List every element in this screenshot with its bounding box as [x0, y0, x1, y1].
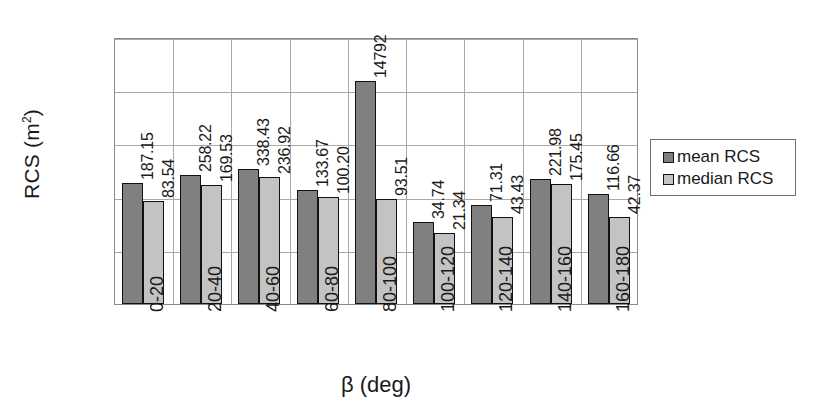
bar-mean-rcs[interactable] — [122, 183, 143, 304]
bar-value-label: 221.98 — [547, 128, 565, 176]
y-axis-title-superscript: 2 — [20, 116, 34, 123]
bar-value-label: 14792 — [372, 35, 390, 79]
bar-mean-rcs[interactable] — [588, 194, 609, 304]
x-tick-label-80-100: 80-100 — [380, 256, 401, 312]
bar-mean-rcs[interactable] — [355, 81, 376, 304]
bar-value-label: 187.15 — [139, 132, 157, 180]
x-tick-label-0-20: 0-20 — [147, 276, 168, 312]
x-tick-label-40-60: 40-60 — [263, 266, 284, 312]
bar-mean-rcs[interactable] — [471, 205, 492, 304]
bar-group: 258.22169.53 — [173, 39, 231, 304]
bar-value-label: 338.43 — [255, 118, 273, 166]
bar-mean-rcs[interactable] — [180, 175, 201, 304]
legend-label-mean-rcs: mean RCS — [677, 147, 760, 167]
y-axis-title-text: RCS (m — [20, 123, 43, 199]
legend-label-median-rcs: median RCS — [677, 169, 773, 189]
bar-mean-rcs[interactable] — [413, 222, 434, 304]
x-tick-label-140-160: 140-160 — [555, 246, 576, 312]
bar-mean-rcs[interactable] — [238, 169, 259, 304]
x-tick-label-120-140: 120-140 — [496, 246, 517, 312]
bar-value-label: 133.67 — [314, 140, 332, 188]
bar-group: 187.1583.54 — [115, 39, 173, 304]
bar-value-label: 42.37 — [626, 175, 644, 214]
x-axis-title: β (deg) — [114, 372, 638, 398]
bar-group: 338.43236.92 — [231, 39, 289, 304]
x-tick-label-60-80: 60-80 — [322, 266, 343, 312]
rcs-bar-chart: RCS (m2) 110100100010000100000 187.1583.… — [0, 0, 820, 410]
bar-mean-rcs[interactable] — [530, 179, 551, 304]
y-axis-title-close: ) — [20, 109, 43, 116]
x-tick-label-100-120: 100-120 — [438, 246, 459, 312]
x-tick-label-20-40: 20-40 — [205, 266, 226, 312]
x-tick-label-160-180: 160-180 — [613, 246, 634, 312]
legend-item-mean-rcs: mean RCS — [663, 146, 795, 168]
legend-swatch-mean-rcs — [663, 152, 674, 163]
bar-value-label: 258.22 — [197, 124, 215, 172]
legend-swatch-median-rcs — [663, 174, 674, 185]
y-axis-title: RCS (m2) — [20, 84, 44, 224]
bar-mean-rcs[interactable] — [297, 190, 318, 304]
bar-value-label: 71.31 — [488, 163, 506, 202]
bar-value-label: 116.66 — [605, 144, 623, 191]
bar-group: 133.67100.20 — [290, 39, 348, 304]
bar-value-label: 34.74 — [430, 180, 448, 219]
legend-item-median-rcs: median RCS — [663, 168, 795, 190]
chart-legend: mean RCS median RCS — [650, 139, 796, 196]
